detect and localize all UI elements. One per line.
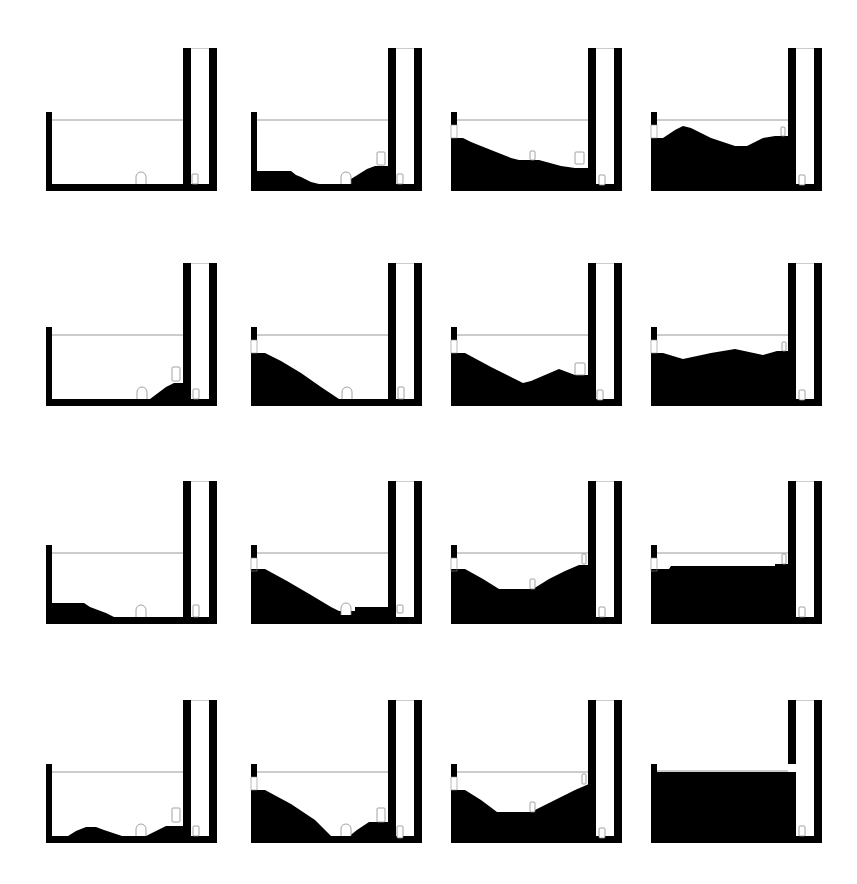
floor bbox=[46, 836, 217, 843]
box-object-icon bbox=[193, 389, 199, 399]
pillar-outer-wall bbox=[414, 700, 422, 843]
floor bbox=[651, 184, 822, 191]
pillar-inner-wall-lower bbox=[788, 772, 796, 843]
tank-panel-r4c3 bbox=[451, 700, 626, 850]
pillar-shaft bbox=[191, 481, 209, 617]
pillar-shaft bbox=[796, 481, 814, 617]
pillar-shaft bbox=[191, 263, 209, 399]
pillar-outer-wall bbox=[209, 263, 217, 406]
tank-panel-r3c4 bbox=[651, 481, 826, 631]
terrain-fill bbox=[651, 349, 796, 406]
box-object-icon bbox=[530, 802, 535, 812]
tank-diagram-grid bbox=[0, 0, 857, 884]
box-object-icon bbox=[781, 127, 785, 136]
pillar-inner-wall bbox=[388, 481, 396, 624]
left-wall-cap bbox=[451, 112, 457, 125]
pillar-inner-wall bbox=[388, 263, 396, 406]
pillar-inner-wall bbox=[788, 263, 796, 406]
pillar-inner-wall bbox=[588, 700, 596, 843]
box-object-icon bbox=[799, 390, 805, 400]
left-wall-cap bbox=[651, 327, 657, 340]
left-wall bbox=[46, 764, 52, 843]
floor bbox=[251, 836, 422, 843]
pillar-outer-wall bbox=[814, 700, 822, 843]
terrain-fill bbox=[451, 138, 596, 191]
pillar-inner-wall bbox=[588, 48, 596, 191]
pillar-outer-wall bbox=[414, 48, 422, 191]
tank-panel-r3c3 bbox=[451, 481, 626, 631]
pillar-inner-wall bbox=[183, 263, 191, 406]
pillar-shaft bbox=[396, 263, 414, 399]
box-object-icon bbox=[397, 605, 403, 613]
floor bbox=[46, 184, 217, 191]
floor bbox=[46, 617, 217, 624]
tank-panel-r2c3 bbox=[451, 263, 626, 413]
pillar-outer-wall bbox=[209, 481, 217, 624]
box-object-icon bbox=[192, 174, 198, 184]
floor bbox=[451, 399, 622, 406]
terrain-fill bbox=[451, 784, 596, 843]
left-wall-cap bbox=[251, 764, 257, 777]
left-wall bbox=[251, 112, 257, 191]
left-wall bbox=[46, 327, 52, 406]
pillar-outer-wall bbox=[414, 481, 422, 624]
box-object-icon bbox=[397, 174, 403, 184]
pillar-shaft bbox=[396, 48, 414, 184]
left-wall-cap bbox=[251, 545, 257, 558]
tank-panel-r3c1 bbox=[46, 481, 221, 631]
tank-panel-r1c3 bbox=[451, 48, 626, 198]
left-wall-gap bbox=[251, 340, 257, 353]
tank-panel-r4c2 bbox=[251, 700, 426, 850]
pillar-shaft bbox=[596, 700, 614, 836]
pillar-shaft bbox=[796, 48, 814, 184]
pillar-outer-wall bbox=[209, 48, 217, 191]
pillar-shaft bbox=[596, 263, 614, 399]
pillar-inner-wall bbox=[183, 700, 191, 843]
floor bbox=[451, 836, 622, 843]
floor bbox=[46, 399, 217, 406]
left-wall-cap bbox=[451, 327, 457, 340]
box-object-icon bbox=[172, 367, 180, 381]
pillar-shaft bbox=[596, 48, 614, 184]
tank-panel-r3c2 bbox=[251, 481, 426, 631]
tank-panel-r2c1 bbox=[46, 263, 221, 413]
tank-panel-r1c4 bbox=[651, 48, 826, 198]
left-wall-gap bbox=[651, 340, 657, 353]
pillar-inner-wall bbox=[183, 481, 191, 624]
pillar-outer-wall bbox=[614, 481, 622, 624]
pillar-shaft bbox=[596, 481, 614, 617]
left-wall-gap bbox=[451, 340, 457, 353]
terrain-fill bbox=[251, 353, 396, 406]
pillar-shaft bbox=[191, 48, 209, 184]
pillar-inner-wall bbox=[183, 48, 191, 191]
box-object-icon bbox=[193, 605, 199, 617]
pillar-inner-wall bbox=[388, 700, 396, 843]
pillar-shaft bbox=[796, 700, 814, 836]
arch-door-icon bbox=[137, 387, 147, 399]
box-object-icon bbox=[782, 342, 786, 351]
box-object-icon bbox=[397, 826, 403, 838]
arch-door-icon bbox=[341, 603, 351, 615]
box-object-icon bbox=[398, 387, 404, 399]
box-object-icon bbox=[782, 554, 786, 564]
tank-panel-r1c2 bbox=[251, 48, 426, 198]
pillar-outer-wall bbox=[814, 48, 822, 191]
pillar-outer-wall bbox=[814, 481, 822, 624]
floor bbox=[251, 184, 422, 191]
left-wall-cap bbox=[451, 764, 457, 777]
tank-panel-r2c4 bbox=[651, 263, 826, 413]
box-object-icon bbox=[582, 554, 586, 564]
box-object-icon bbox=[799, 175, 805, 185]
arch-door-icon bbox=[136, 605, 146, 617]
floor bbox=[451, 617, 622, 624]
left-wall-gap bbox=[651, 125, 657, 138]
terrain-fill bbox=[651, 126, 796, 191]
pillar-shaft bbox=[191, 700, 209, 836]
tank-panel-r1c1 bbox=[46, 48, 221, 198]
terrain-fill bbox=[251, 790, 396, 843]
left-wall bbox=[46, 112, 52, 191]
left-wall-cap bbox=[651, 545, 657, 558]
box-object-icon bbox=[377, 152, 385, 165]
pillar-shaft bbox=[396, 700, 414, 836]
arch-door-icon bbox=[341, 172, 351, 184]
